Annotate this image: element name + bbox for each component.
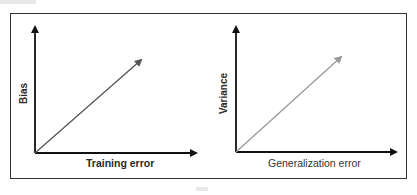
generalization-error-axis-label: Generalization error: [268, 157, 361, 169]
bias-trend-arrow: [35, 60, 141, 153]
bias-panel: [35, 27, 196, 153]
variance-trend-arrow: [236, 57, 341, 152]
variance-panel: [236, 27, 396, 152]
bias-axis-label: Bias: [18, 81, 29, 107]
training-error-axis-label: Training error: [86, 157, 154, 169]
variance-axis-label: Variance: [218, 72, 229, 116]
